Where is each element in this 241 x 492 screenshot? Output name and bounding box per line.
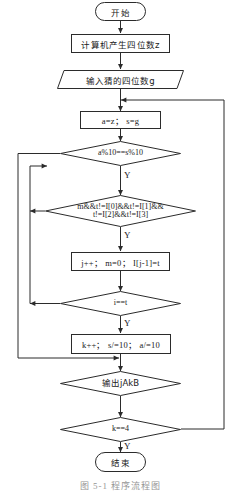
node-condition-digit-match[interactable]: a%10==s%10 [60,141,181,166]
node-output-result-label: 输出jAkB [60,379,181,388]
node-input-guess-label: 输入猜的四位数g [57,74,184,86]
node-condition-unique-line2: t!=I[2]&&t!=I[3] [93,210,148,219]
branch-label-cond2-yes: Y [124,230,131,240]
node-advance-digit[interactable]: k++； s/=10； a/=10 [71,334,171,354]
node-start-label: 开始 [111,6,131,18]
branch-label-cond3-yes: Y [124,318,131,328]
node-assign[interactable]: a=z； s=g [80,111,161,129]
figure-caption: 图 5-1 程序流程图 [0,479,241,492]
node-end[interactable]: 结束 [95,452,146,472]
node-input-guess[interactable]: 输入猜的四位数g [57,70,184,89]
node-advance-digit-label: k++； s/=10； a/=10 [82,338,160,350]
node-output-result[interactable]: 输出jAkB [60,371,181,396]
node-condition-position-match-label: i==t [60,299,181,307]
node-condition-loop-done[interactable]: k==4 [60,417,181,442]
node-condition-loop-done-label: k==4 [60,425,181,433]
branch-label-cond4-yes: Y [124,441,131,451]
node-condition-unique-text: m&&t!=I[0]&&t!=I[1]&& t!=I[2]&&t!=I[3] [45,203,196,220]
node-end-label: 结束 [111,456,131,468]
node-condition-digit-match-label: a%10==s%10 [60,149,181,157]
node-start[interactable]: 开始 [95,2,146,21]
node-generate-number-label: 计算机产生四位数z [81,38,159,50]
node-record-digit[interactable]: j++； m=0； I[j-1]=t [71,252,170,271]
node-condition-unique[interactable]: m&&t!=I[0]&&t!=I[1]&& t!=I[2]&&t!=I[3] [45,195,196,227]
node-generate-number[interactable]: 计算机产生四位数z [71,34,170,53]
branch-label-cond1-yes: Y [124,170,131,180]
node-condition-position-match[interactable]: i==t [60,291,181,316]
node-record-digit-label: j++； m=0； I[j-1]=t [81,256,160,268]
node-assign-label: a=z； s=g [102,114,139,126]
